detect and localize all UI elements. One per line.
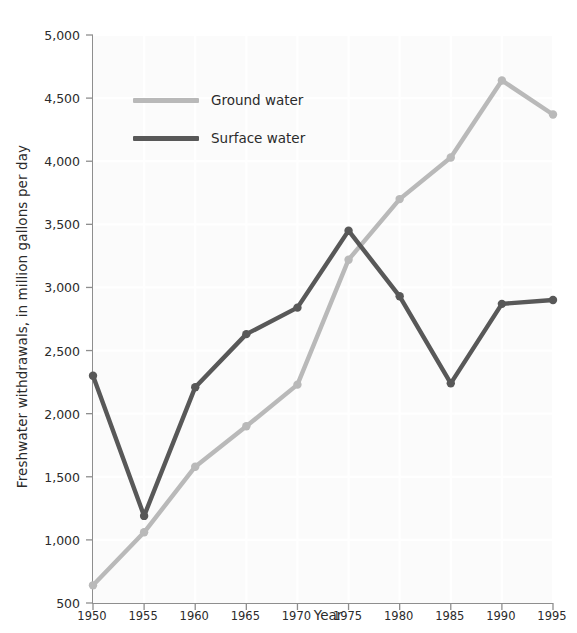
data-point bbox=[395, 292, 403, 300]
legend-swatch-surface-water bbox=[133, 136, 199, 141]
legend-entry[interactable]: Ground water bbox=[133, 92, 305, 108]
data-point bbox=[447, 379, 455, 387]
data-point bbox=[140, 528, 148, 536]
data-point bbox=[293, 380, 301, 388]
chart-legend: Ground waterSurface water bbox=[133, 92, 305, 146]
line-chart: Freshwater withdrawals, in million gallo… bbox=[0, 0, 577, 633]
y-tick-label: 3,000 bbox=[44, 280, 80, 295]
y-tick-label: 1,000 bbox=[44, 532, 80, 547]
series-line-surface-water bbox=[93, 231, 553, 516]
data-point bbox=[191, 462, 199, 470]
data-point bbox=[344, 255, 352, 263]
data-point bbox=[293, 303, 301, 311]
data-point bbox=[242, 422, 250, 430]
y-axis-tick-labels: 5001,0001,5002,0002,5003,0003,5004,0004,… bbox=[0, 35, 80, 603]
legend-label: Ground water bbox=[211, 92, 303, 108]
y-tick-label: 3,500 bbox=[44, 217, 80, 232]
y-tick-label: 2,500 bbox=[44, 343, 80, 358]
data-point bbox=[447, 153, 455, 161]
data-point bbox=[498, 76, 506, 84]
data-point bbox=[344, 226, 352, 234]
y-tick-label: 4,000 bbox=[44, 154, 80, 169]
data-point bbox=[549, 296, 557, 304]
data-point bbox=[89, 581, 97, 589]
y-tick-label: 5,000 bbox=[44, 28, 80, 43]
data-point bbox=[498, 300, 506, 308]
legend-label: Surface water bbox=[211, 130, 305, 146]
y-tick-label: 2,000 bbox=[44, 406, 80, 421]
data-point bbox=[395, 195, 403, 203]
x-axis-title: Year bbox=[88, 607, 568, 623]
data-point bbox=[191, 383, 199, 391]
data-point bbox=[242, 330, 250, 338]
data-point bbox=[140, 512, 148, 520]
legend-swatch-ground-water bbox=[133, 98, 199, 103]
data-point bbox=[549, 110, 557, 118]
y-tick-label: 4,500 bbox=[44, 91, 80, 106]
data-point bbox=[89, 372, 97, 380]
data-series bbox=[89, 76, 557, 589]
legend-entry[interactable]: Surface water bbox=[133, 130, 305, 146]
y-tick-label: 1,500 bbox=[44, 469, 80, 484]
